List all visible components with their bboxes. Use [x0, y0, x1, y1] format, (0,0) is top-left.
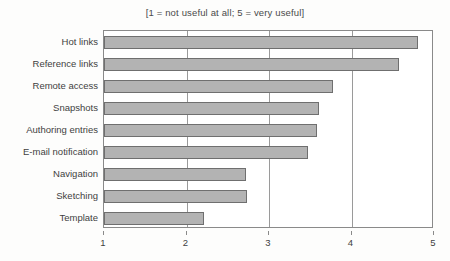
bar-chart-figure: [1 = not useful at all; 5 = very useful]…	[0, 0, 450, 261]
bar-row	[104, 75, 432, 97]
x-axis-tick	[433, 231, 434, 235]
plot-area	[103, 30, 433, 228]
x-axis-label: 3	[265, 237, 270, 248]
bar	[104, 124, 317, 137]
y-axis-label: Hot links	[62, 36, 98, 47]
y-axis-label: Navigation	[53, 168, 98, 179]
bar	[104, 168, 246, 181]
y-axis-label: Template	[59, 212, 98, 223]
bar-row	[104, 185, 432, 207]
y-axis-label: Snapshots	[53, 102, 98, 113]
x-axis-tick	[103, 231, 104, 235]
page-margin	[0, 248, 450, 261]
bar	[104, 102, 319, 115]
x-axis-label: 2	[183, 237, 188, 248]
y-axis-category-labels: Hot linksReference linksRemote accessSna…	[0, 30, 103, 228]
bar-row	[104, 119, 432, 141]
chart-title: [1 = not useful at all; 5 = very useful]	[0, 7, 450, 18]
bar	[104, 146, 308, 159]
bar-row	[104, 163, 432, 185]
bar	[104, 190, 247, 203]
bar-row	[104, 141, 432, 163]
x-axis-tick	[186, 231, 187, 235]
bar-row	[104, 53, 432, 75]
x-axis-label: 4	[348, 237, 353, 248]
bar	[104, 212, 204, 225]
bar	[104, 36, 418, 49]
y-axis-label: Remote access	[33, 80, 98, 91]
y-axis-label: Reference links	[33, 58, 98, 69]
bar	[104, 58, 399, 71]
x-axis-label: 5	[430, 237, 435, 248]
y-axis-label: Sketching	[56, 190, 98, 201]
x-axis-tick	[351, 231, 352, 235]
bar-row	[104, 97, 432, 119]
y-axis-label: E-mail notification	[23, 146, 98, 157]
bar-row	[104, 207, 432, 229]
x-axis-tick	[268, 231, 269, 235]
x-axis-label: 1	[100, 237, 105, 248]
bar	[104, 80, 333, 93]
y-axis-label: Authoring entries	[26, 124, 98, 135]
bar-row	[104, 31, 432, 53]
